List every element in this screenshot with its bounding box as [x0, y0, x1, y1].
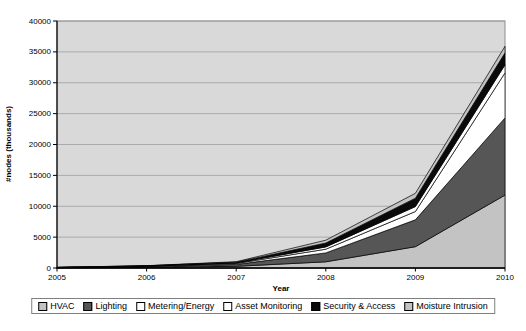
- legend-item-lighting: Lighting: [84, 301, 128, 311]
- stacked-area-chart: 0500010000150002000025000300003500040000…: [0, 0, 526, 331]
- y-tick-label: 20000: [29, 140, 52, 149]
- legend-item-hvac: HVAC: [38, 301, 74, 311]
- x-tick-label: 2007: [227, 273, 245, 282]
- legend-label: Security & Access: [323, 301, 395, 311]
- x-tick-label: 2005: [48, 273, 66, 282]
- x-tick-label: 2010: [496, 273, 514, 282]
- legend-label: HVAC: [50, 301, 74, 311]
- legend-swatch: [38, 302, 47, 311]
- x-axis-title: Year: [273, 284, 290, 293]
- legend-item-metering-energy: Metering/Energy: [136, 301, 214, 311]
- y-tick-label: 25000: [29, 109, 52, 118]
- y-tick-label: 0: [47, 264, 52, 273]
- legend-label: Lighting: [96, 301, 128, 311]
- legend-swatch: [223, 302, 232, 311]
- legend: HVACLightingMetering/EnergyAsset Monitor…: [31, 298, 495, 314]
- legend-swatch: [404, 302, 413, 311]
- plot-canvas: 0500010000150002000025000300003500040000…: [0, 0, 526, 331]
- legend-label: Asset Monitoring: [235, 301, 302, 311]
- x-tick-label: 2008: [317, 273, 335, 282]
- y-tick-label: 15000: [29, 171, 52, 180]
- x-tick-label: 2009: [407, 273, 425, 282]
- y-axis-title: #nodes (thousands): [4, 106, 13, 182]
- legend-item-security-access: Security & Access: [311, 301, 395, 311]
- y-tick-label: 5000: [33, 233, 51, 242]
- y-tick-label: 35000: [29, 47, 52, 56]
- legend-label: Metering/Energy: [148, 301, 214, 311]
- legend-swatch: [311, 302, 320, 311]
- legend-item-asset-monitoring: Asset Monitoring: [223, 301, 302, 311]
- x-tick-label: 2006: [138, 273, 156, 282]
- legend-label: Moisture Intrusion: [416, 301, 488, 311]
- legend-swatch: [136, 302, 145, 311]
- legend-item-moisture-intrusion: Moisture Intrusion: [404, 301, 488, 311]
- y-tick-label: 30000: [29, 78, 52, 87]
- y-tick-label: 40000: [29, 17, 52, 26]
- legend-swatch: [84, 302, 93, 311]
- y-tick-label: 10000: [29, 202, 52, 211]
